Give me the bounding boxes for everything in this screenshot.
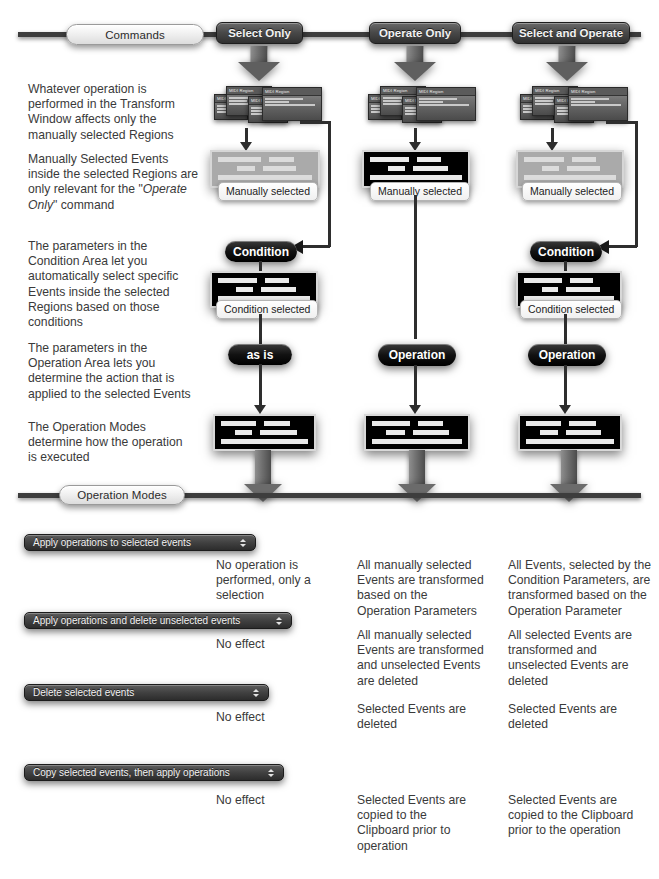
mode-result-select-only-3: No effect	[216, 793, 351, 808]
bypass-connector-vertical-select-and-operate	[635, 121, 638, 247]
mode-result-select-and-operate-3: Selected Events are copied to the Clipbo…	[508, 793, 659, 839]
operation-node-select-only[interactable]: as is	[228, 344, 292, 365]
arrowhead-operation-to-result-select-only	[254, 405, 266, 414]
mode-select-delete-selected-events[interactable]: Delete selected events	[24, 684, 269, 701]
condition-node-select-only[interactable]: Condition	[225, 241, 297, 262]
stepper-arrows-icon[interactable]	[274, 617, 283, 625]
bypass-connector-bottom-select-and-operate	[608, 245, 637, 248]
command-label: Operate Only	[379, 27, 451, 39]
command-button-select-and-operate[interactable]: Select and Operate	[512, 22, 630, 44]
connector-panel-to-operation-select-and-operate	[564, 314, 567, 344]
mode-select-label: Apply operations and delete unselected e…	[33, 615, 274, 626]
mode-result-select-only-2: No effect	[216, 710, 351, 725]
mode-result-operate-only-0: All manually selected Events are transfo…	[357, 558, 507, 619]
note-transform-window: Whatever operation is performed in the T…	[28, 82, 208, 143]
stepper-arrows-icon[interactable]	[238, 539, 247, 547]
mode-result-select-and-operate-0: All Events, selected by the Condition Pa…	[508, 558, 659, 619]
operation-node-label: Operation	[389, 348, 446, 362]
operation-node-operate-only[interactable]: Operation	[378, 344, 456, 366]
mode-result-select-and-operate-2: Selected Events are deleted	[508, 702, 659, 732]
event-panel-result-select-only	[213, 414, 316, 451]
condition-node-select-and-operate[interactable]: Condition	[530, 241, 602, 262]
stepper-arrows-icon[interactable]	[266, 769, 275, 777]
event-panel-result-operate-only	[364, 414, 470, 451]
operation-node-label: Operation	[539, 348, 596, 362]
connector-operation-to-result-select-only	[259, 364, 262, 410]
command-button-select-only[interactable]: Select Only	[216, 22, 303, 44]
caption-manually-selected-select-only: Manually selected	[218, 182, 318, 201]
connector-operation-to-result-operate-only	[414, 365, 417, 410]
flow-arrow-operate-only	[393, 46, 437, 80]
caption-manually-selected-select-and-operate: Manually selected	[522, 182, 622, 201]
connector-panel-to-operation-select-only	[259, 314, 262, 344]
midi-region-stack-operate-only: MIDI Region MIDI Region MIDI Region MIDI…	[360, 80, 478, 130]
condition-node-label: Condition	[233, 245, 289, 259]
midi-region-title: MIDI Region	[263, 88, 321, 96]
operation-node-label: as is	[247, 348, 274, 362]
note-operation-area: The parameters in the Operation Area let…	[28, 341, 214, 402]
command-button-operate-only[interactable]: Operate Only	[369, 22, 461, 44]
operation-modes-rail-label: Operation Modes	[59, 485, 185, 505]
operation-modes-label-text: Operation Modes	[77, 489, 167, 501]
mode-result-operate-only-2: Selected Events are deleted	[357, 702, 507, 732]
bypass-connector-bottom-select-only	[302, 245, 330, 248]
bypass-connector-vertical-select-only	[328, 121, 331, 247]
note-operation-modes: The Operation Modes determine how the op…	[28, 420, 214, 466]
command-label: Select Only	[228, 27, 291, 39]
flow-arrow-select-only	[237, 46, 281, 80]
midi-region-title: MIDI Region	[569, 88, 627, 96]
mode-result-select-only-0: No operation is performed, only a select…	[216, 558, 351, 604]
operation-node-select-and-operate[interactable]: Operation	[528, 344, 606, 366]
mode-select-label: Apply operations to selected events	[33, 537, 238, 548]
mode-select-copy-selected-events-then-apply-operations[interactable]: Copy selected events, then apply operati…	[24, 764, 284, 781]
note-condition-area: The parameters in the Condition Area let…	[28, 239, 210, 330]
arrowhead-operation-to-result-select-and-operate	[559, 405, 571, 414]
caption-condition-selected-select-only: Condition selected	[216, 300, 318, 319]
midi-region-title: MIDI Region	[417, 88, 475, 96]
mode-result-operate-only-1: All manually selected Events are transfo…	[357, 628, 507, 689]
mode-select-label: Copy selected events, then apply operati…	[33, 767, 266, 778]
mode-result-select-and-operate-1: All selected Events are transformed and …	[508, 628, 659, 689]
mode-select-label: Delete selected events	[33, 687, 251, 698]
transform-window-diagram: Commands Select Only Operate Only Select…	[0, 0, 659, 879]
stepper-arrows-icon[interactable]	[251, 689, 260, 697]
connector-operation-to-result-select-and-operate	[564, 365, 567, 410]
commands-label-text: Commands	[105, 29, 165, 41]
note-manually-selected-events: Manually Selected Events inside the sele…	[28, 152, 218, 213]
mode-result-operate-only-3: Selected Events are copied to the Clipbo…	[357, 793, 507, 854]
caption-condition-selected-select-and-operate: Condition selected	[520, 300, 622, 319]
command-label: Select and Operate	[519, 27, 623, 39]
arrowhead-operation-to-result-operate-only	[409, 405, 421, 414]
flow-arrow-select-and-operate	[545, 46, 589, 80]
event-panel-result-select-and-operate	[518, 414, 622, 451]
connector-events-to-operation-operate-only	[414, 195, 417, 339]
condition-node-label: Condition	[538, 245, 594, 259]
commands-rail-label: Commands	[66, 24, 204, 45]
bypass-connector-top-select-and-operate	[606, 121, 638, 124]
caption-manually-selected-operate-only: Manually selected	[370, 182, 470, 201]
mode-select-apply-operations-and-delete-unselected-events[interactable]: Apply operations and delete unselected e…	[24, 612, 292, 629]
mode-result-select-only-1: No effect	[216, 637, 351, 652]
mode-select-apply-operations-to-selected-events[interactable]: Apply operations to selected events	[24, 534, 256, 551]
bypass-connector-top-select-only	[300, 121, 331, 124]
